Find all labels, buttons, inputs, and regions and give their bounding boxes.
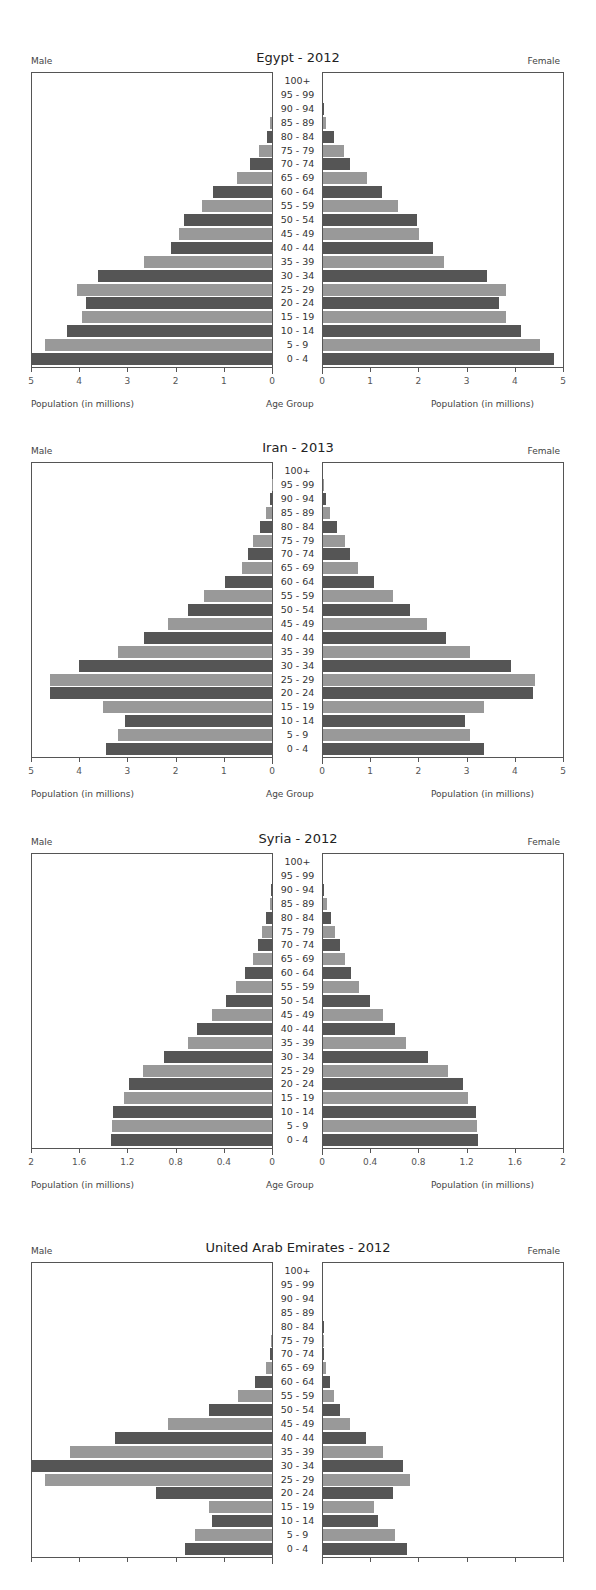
female-plot-panel xyxy=(322,1262,564,1558)
male-bar xyxy=(168,1418,272,1430)
age-group-label: 85 - 89 xyxy=(273,897,323,911)
x-tick xyxy=(127,1148,128,1153)
female-bar xyxy=(323,1037,406,1049)
male-bar xyxy=(209,1404,272,1416)
x-tick xyxy=(272,1148,273,1153)
female-bar xyxy=(323,1418,350,1430)
x-tick-label: 1 xyxy=(367,376,373,386)
male-bar xyxy=(45,339,272,351)
male-x-axis xyxy=(31,1148,272,1149)
age-group-label: 100+ xyxy=(273,74,323,88)
chart-header: United Arab Emirates - 2012MaleFemale xyxy=(0,1240,596,1262)
age-group-label: 25 - 29 xyxy=(273,1473,323,1487)
pyramid-chart: Syria - 2012MaleFemale100+95 - 9990 - 94… xyxy=(0,831,596,1171)
female-bar xyxy=(323,1051,428,1063)
female-bar xyxy=(323,646,470,658)
female-label: Female xyxy=(527,56,560,66)
x-tick xyxy=(322,757,323,762)
female-bar xyxy=(323,967,351,979)
female-bar xyxy=(323,1078,463,1090)
x-tick-label: 3 xyxy=(464,766,470,776)
age-group-label: 95 - 99 xyxy=(273,869,323,883)
female-bar xyxy=(323,715,465,727)
age-group-label: 40 - 44 xyxy=(273,1431,323,1445)
male-x-axis-title: Population (in millions) xyxy=(31,789,134,799)
female-x-axis-title: Population (in millions) xyxy=(431,1180,534,1190)
female-bar xyxy=(323,1348,324,1360)
age-group-label: 70 - 74 xyxy=(273,938,323,952)
x-tick xyxy=(31,367,32,372)
x-tick xyxy=(370,757,371,762)
chart-title: Egypt - 2012 xyxy=(0,50,596,65)
x-tick xyxy=(322,1148,323,1153)
x-tick xyxy=(127,757,128,762)
age-group-label: 30 - 34 xyxy=(273,659,323,673)
male-bar xyxy=(195,1529,272,1541)
x-tick xyxy=(79,367,80,372)
center-axis-title: Age Group xyxy=(266,789,314,799)
female-bar xyxy=(323,743,484,755)
x-tick xyxy=(418,757,419,762)
age-group-label: 75 - 79 xyxy=(273,925,323,939)
male-bar xyxy=(237,172,272,184)
x-tick-label: 2 xyxy=(416,376,422,386)
male-bar xyxy=(266,1362,272,1374)
x-tick xyxy=(418,1557,419,1562)
age-group-label: 10 - 14 xyxy=(273,1105,323,1119)
female-bar xyxy=(323,1390,334,1402)
age-group-label: 75 - 79 xyxy=(273,1334,323,1348)
age-group-label: 15 - 19 xyxy=(273,1500,323,1514)
age-group-label: 35 - 39 xyxy=(273,645,323,659)
female-bar xyxy=(323,1529,395,1541)
male-bar xyxy=(168,618,272,630)
x-tick xyxy=(79,757,80,762)
female-bar xyxy=(323,632,446,644)
age-group-label: 5 - 9 xyxy=(273,338,323,352)
x-tick-label: 5 xyxy=(28,766,34,776)
chart-title: Iran - 2013 xyxy=(0,440,596,455)
male-bar xyxy=(118,729,272,741)
female-bar xyxy=(323,562,358,574)
age-group-label: 40 - 44 xyxy=(273,1022,323,1036)
male-bar xyxy=(82,311,272,323)
x-tick xyxy=(127,367,128,372)
x-tick xyxy=(563,757,564,762)
x-tick-label: 0.4 xyxy=(363,1157,377,1167)
x-tick xyxy=(224,1148,225,1153)
x-tick-label: 1.6 xyxy=(72,1157,86,1167)
age-group-label: 20 - 24 xyxy=(273,1077,323,1091)
age-group-label: 65 - 69 xyxy=(273,1361,323,1375)
male-bar xyxy=(185,1543,272,1555)
x-tick xyxy=(31,757,32,762)
female-bar xyxy=(323,912,331,924)
age-group-label: 75 - 79 xyxy=(273,144,323,158)
male-bar xyxy=(248,548,272,560)
x-tick xyxy=(31,1557,32,1562)
age-group-label: 0 - 4 xyxy=(273,742,323,756)
female-bar xyxy=(323,200,398,212)
female-bar xyxy=(323,521,337,533)
female-bar xyxy=(323,1120,477,1132)
chart-title: Syria - 2012 xyxy=(0,831,596,846)
x-tick xyxy=(370,1148,371,1153)
female-bar xyxy=(323,1009,383,1021)
age-group-label: 5 - 9 xyxy=(273,728,323,742)
x-tick-label: 5 xyxy=(28,376,34,386)
male-label: Male xyxy=(31,837,52,847)
female-label: Female xyxy=(527,446,560,456)
chart-header: Syria - 2012MaleFemale xyxy=(0,831,596,853)
male-bar xyxy=(171,242,272,254)
x-tick xyxy=(224,367,225,372)
age-group-label: 30 - 34 xyxy=(273,1459,323,1473)
female-bar xyxy=(323,687,533,699)
x-tick-label: 4 xyxy=(512,766,518,776)
x-tick xyxy=(515,1557,516,1562)
center-axis-title: Age Group xyxy=(266,1180,314,1190)
male-bar xyxy=(31,1460,272,1472)
age-group-label: 55 - 59 xyxy=(273,589,323,603)
female-bar xyxy=(323,926,335,938)
male-bar xyxy=(212,1515,272,1527)
male-bar xyxy=(212,1009,272,1021)
female-x-axis xyxy=(322,1557,563,1558)
age-group-label: 45 - 49 xyxy=(273,617,323,631)
